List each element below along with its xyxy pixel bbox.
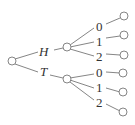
- edge-t2-leaf: [106, 104, 120, 111]
- leaf-h0: [120, 12, 128, 20]
- t-node: [63, 75, 71, 83]
- label-t-1: 1: [96, 80, 103, 95]
- edge-t-label-node: [50, 75, 63, 78]
- leaf-h2: [120, 51, 128, 59]
- leaf-t2: [119, 108, 127, 116]
- label-h-0: 0: [96, 19, 103, 34]
- root-node: [8, 57, 16, 65]
- edge-h0-leaf: [106, 18, 120, 24]
- label-t: T: [40, 64, 48, 79]
- label-h-1: 1: [96, 34, 103, 49]
- edge-h2-leaf: [106, 54, 120, 55]
- label-h-2: 2: [96, 49, 103, 64]
- label-h: H: [38, 44, 49, 59]
- edge-root-t: [15, 64, 38, 72]
- leaf-h1: [120, 31, 128, 39]
- tree-diagram: H T 0 1 2 0 1 2: [0, 0, 135, 125]
- edge-h1-leaf: [106, 36, 120, 38]
- edge-t-0: [70, 74, 94, 78]
- edge-h-label-node: [54, 48, 63, 50]
- edge-t-1: [70, 80, 94, 88]
- edge-root-h: [15, 52, 38, 59]
- leaf-t0: [119, 69, 127, 77]
- edge-h-2: [70, 49, 94, 56]
- leaf-t1: [119, 88, 127, 96]
- edge-t1-leaf: [106, 88, 120, 92]
- h-node: [63, 43, 71, 51]
- edge-t-2: [70, 82, 94, 100]
- label-t-0: 0: [96, 65, 103, 80]
- edge-t0-leaf: [106, 72, 120, 73]
- label-t-2: 2: [96, 95, 103, 110]
